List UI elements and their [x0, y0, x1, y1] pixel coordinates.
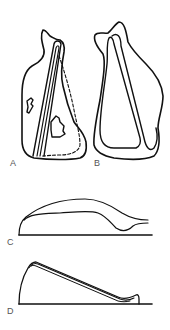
panel-c-label: C	[7, 238, 14, 247]
panel-b-label: B	[94, 159, 100, 168]
panel-b-drawing	[94, 22, 163, 159]
panel-d-label: D	[7, 307, 14, 316]
panel-c-drawing	[19, 199, 152, 235]
panel-a-drawing	[22, 30, 86, 160]
panel-d-drawing	[19, 262, 152, 304]
figure-drawing	[0, 0, 170, 330]
panel-a-label: A	[10, 159, 16, 168]
